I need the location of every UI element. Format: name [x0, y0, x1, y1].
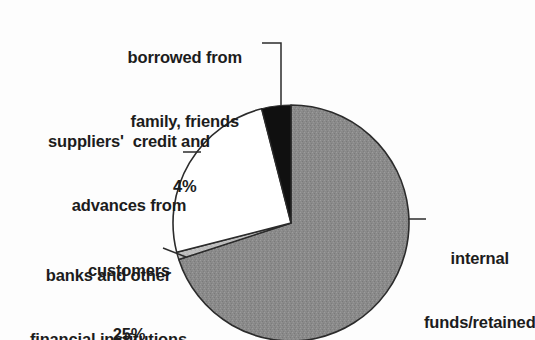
pie-label-internal-line2: funds/retained — [424, 312, 535, 333]
pie-chart-figure: borrowed from family, friends 4% supplie… — [0, 0, 535, 340]
leader-line-borrowed — [262, 43, 281, 106]
pie-label-suppliers-line2: advances from — [48, 195, 210, 216]
pie-label-borrowed-line1: borrowed from — [128, 47, 242, 68]
pie-label-banks-line1: banks and other — [30, 265, 187, 286]
pie-label-banks: banks and other financial institutions 1… — [30, 222, 187, 340]
pie-label-banks-line2: financial institutions — [30, 329, 187, 340]
pie-label-suppliers-line1: suppliers' credit and — [48, 131, 210, 152]
pie-label-internal-funds: internal funds/retained earnings 70% — [424, 205, 535, 340]
pie-label-internal-line1: internal — [424, 248, 535, 269]
